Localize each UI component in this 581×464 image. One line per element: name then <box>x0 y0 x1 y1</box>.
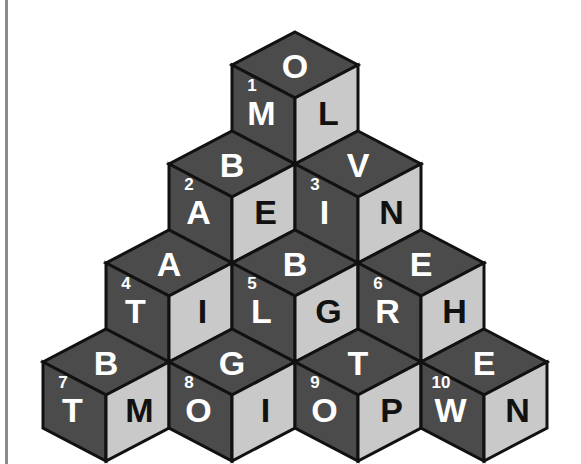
cube-6-index-label: 6 <box>373 274 382 293</box>
cube-6-top-letter: E <box>410 245 433 283</box>
cube-9-right-letter: P <box>380 391 403 429</box>
cube-2-left-letter: A <box>186 193 211 231</box>
cube-8-right-letter: I <box>261 391 270 429</box>
cube-3-top-letter: V <box>347 146 370 184</box>
cube-pyramid: OML1BAE2VIN3ATI4BLG5ERH6BTM7GOI8TOP9EWN1… <box>0 0 581 464</box>
cube-3-right-letter: N <box>379 193 404 231</box>
cube-5-top-letter: B <box>283 245 308 283</box>
cube-9-left-letter: O <box>311 391 337 429</box>
cube-6-left-letter: R <box>375 292 400 330</box>
cube-9-top-letter: T <box>348 344 369 382</box>
cube-7-index-label: 7 <box>58 373 67 392</box>
cube-1-index-label: 1 <box>247 76 256 95</box>
cube-10-left-letter: W <box>434 391 467 429</box>
cube-3-left-letter: I <box>320 193 329 231</box>
cube-8-top-letter: G <box>219 344 245 382</box>
cube-5-left-letter: L <box>251 292 272 330</box>
cube-5-right-letter: G <box>315 292 341 330</box>
cube-2-right-letter: E <box>254 193 277 231</box>
cube-4-right-letter: I <box>198 292 207 330</box>
cube-1-top-letter: O <box>282 47 308 85</box>
cube-1-left-letter: M <box>247 94 275 132</box>
cube-8-index-label: 8 <box>184 373 193 392</box>
cube-2-index-label: 2 <box>184 175 193 194</box>
cube-7-right-letter: M <box>125 391 153 429</box>
cube-2-top-letter: B <box>220 146 245 184</box>
cube-7-top-letter: B <box>94 344 119 382</box>
cube-10-top-letter: E <box>473 344 496 382</box>
cube-4-left-letter: T <box>125 292 146 330</box>
cube-1-right-letter: L <box>318 94 339 132</box>
cube-10-index-label: 10 <box>432 373 451 392</box>
cube-9-index-label: 9 <box>310 373 319 392</box>
cube-4-top-letter: A <box>157 245 182 283</box>
cube-5-index-label: 5 <box>247 274 256 293</box>
cube-10-right-letter: N <box>505 391 530 429</box>
cube-8-left-letter: O <box>185 391 211 429</box>
cube-4-index-label: 4 <box>121 274 131 293</box>
puzzle-figure: OML1BAE2VIN3ATI4BLG5ERH6BTM7GOI8TOP9EWN1… <box>0 0 581 464</box>
cube-7-left-letter: T <box>62 391 83 429</box>
cube-6-right-letter: H <box>442 292 467 330</box>
cube-3-index-label: 3 <box>310 175 319 194</box>
